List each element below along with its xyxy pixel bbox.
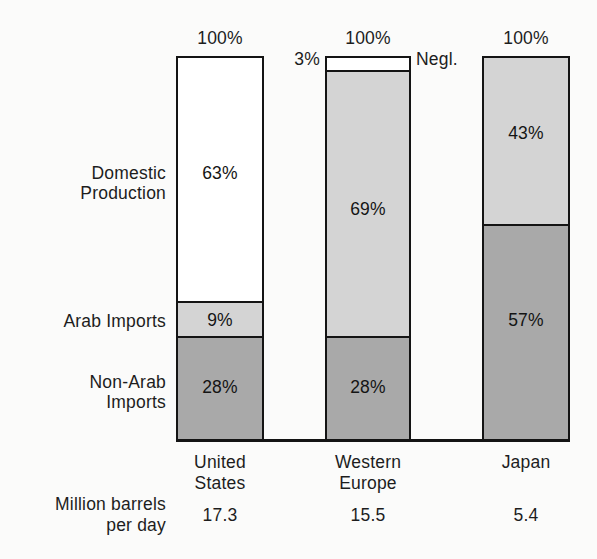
axis-value-western-europe: 15.5: [325, 505, 411, 526]
bar-united-states[interactable]: 63% 9% 28%: [176, 56, 264, 441]
segment-value-western-europe-nonarab: 28%: [327, 377, 409, 398]
segment-value-united-states-domestic: 63%: [178, 163, 262, 184]
row-label-arab-imports: Arab Imports: [0, 311, 166, 331]
chart-baseline: [176, 439, 570, 442]
segment-value-western-europe-domestic: 69%: [327, 199, 409, 220]
segment-japan-nonarab[interactable]: 57%: [484, 224, 568, 439]
callout-japan-arab: Negl.: [416, 49, 480, 70]
segment-japan-domestic[interactable]: 43%: [484, 58, 568, 224]
chart-figure: Domestic Production Arab Imports Non-Ara…: [0, 0, 597, 559]
bar-western-europe[interactable]: 69% 28%: [325, 56, 411, 441]
segment-value-united-states-nonarab: 28%: [178, 377, 262, 398]
segment-value-japan-domestic: 43%: [484, 123, 568, 144]
segment-western-europe-nonarab[interactable]: 28%: [327, 336, 409, 439]
axis-value-japan: 5.4: [482, 505, 570, 526]
segment-western-europe-arab[interactable]: [327, 58, 409, 70]
axis-label-western-europe: Western Europe: [325, 452, 411, 494]
axis-value-united-states: 17.3: [176, 505, 264, 526]
segment-united-states-arab[interactable]: 9%: [178, 301, 262, 336]
segment-united-states-nonarab[interactable]: 28%: [178, 336, 262, 439]
axis-label-united-states: United States: [176, 452, 264, 494]
segment-united-states-domestic[interactable]: 63%: [178, 58, 262, 301]
segment-western-europe-domestic[interactable]: 69%: [327, 70, 409, 336]
segment-value-united-states-arab: 9%: [178, 310, 262, 331]
callout-western-europe-arab: 3%: [268, 49, 320, 70]
bar-total-western-europe: 100%: [325, 28, 411, 49]
bar-japan[interactable]: 43% 57%: [482, 56, 570, 441]
row-label-domestic-production: Domestic Production: [0, 163, 166, 203]
bar-total-japan: 100%: [482, 28, 570, 49]
segment-value-japan-nonarab: 57%: [484, 310, 568, 331]
bar-total-united-states: 100%: [176, 28, 264, 49]
row-label-non-arab-imports: Non-Arab Imports: [0, 372, 166, 412]
units-label-million-barrels-per-day: Million barrels per day: [0, 494, 166, 536]
axis-label-japan: Japan: [482, 452, 570, 473]
